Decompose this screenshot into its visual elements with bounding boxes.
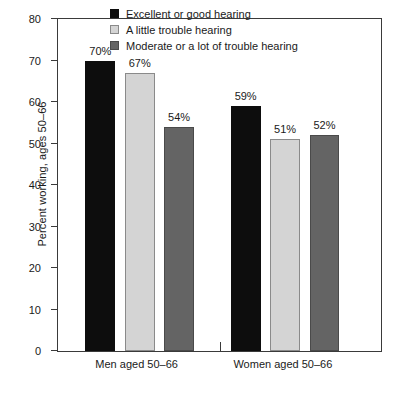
bar-value-label: 51% — [274, 123, 296, 135]
legend-swatch-dark — [110, 9, 119, 18]
bar: 54% — [164, 127, 194, 351]
y-axis-tick-label: 80 — [29, 13, 41, 25]
legend-item: Excellent or good hearing — [110, 6, 298, 21]
y-axis-tick-label: 70 — [29, 55, 41, 67]
y-axis-tick: 40 — [51, 184, 58, 185]
y-axis-tick: 20 — [51, 267, 58, 268]
y-axis-tick-label: 50 — [29, 138, 41, 150]
y-axis-tick: 60 — [51, 101, 58, 102]
bar: 67% — [125, 73, 155, 351]
bar-value-label: 59% — [235, 90, 257, 102]
y-axis-tick: 0 — [51, 350, 58, 351]
bar: 52% — [310, 135, 340, 351]
y-axis-title: Percent working, ages 50–66 — [36, 54, 48, 294]
bar-value-label: 67% — [129, 57, 151, 69]
y-axis-tick-label: 60 — [29, 96, 41, 108]
bars-layer: 70%67%54%59%51%52% — [58, 19, 381, 351]
legend-item: Moderate or a lot of trouble hearing — [110, 38, 298, 53]
bar-value-label: 70% — [89, 45, 111, 57]
plot-area: 01020304050607080 70%67%54%59%51%52% — [57, 18, 382, 352]
legend-item-label: A little trouble hearing — [126, 24, 232, 36]
x-axis-group-separator-tick — [220, 342, 221, 351]
y-axis-tick: 50 — [51, 143, 58, 144]
y-axis-tick-label: 40 — [29, 179, 41, 191]
bar-value-label: 52% — [313, 119, 335, 131]
y-axis-tick: 80 — [51, 18, 58, 19]
y-axis-tick-label: 30 — [29, 221, 41, 233]
bar-value-label: 54% — [168, 111, 190, 123]
y-axis-tick: 10 — [51, 309, 58, 310]
y-axis-tick-label: 20 — [29, 262, 41, 274]
legend: Excellent or good hearingA little troubl… — [110, 6, 298, 54]
y-axis-tick: 70 — [51, 60, 58, 61]
bar: 59% — [231, 106, 261, 351]
y-axis-tick-label: 10 — [29, 304, 41, 316]
legend-item-label: Moderate or a lot of trouble hearing — [126, 40, 298, 52]
legend-item-label: Excellent or good hearing — [126, 8, 251, 20]
bar: 70% — [85, 61, 115, 352]
bar: 51% — [270, 139, 300, 351]
legend-swatch-medium — [110, 41, 119, 50]
bar-chart: Percent working, ages 50–66 010203040506… — [0, 0, 398, 394]
legend-swatch-light — [110, 25, 119, 34]
x-axis-group-label: Women aged 50–66 — [233, 358, 332, 370]
y-axis-tick: 30 — [51, 226, 58, 227]
x-axis-group-label: Men aged 50–66 — [95, 358, 178, 370]
y-axis-tick-label: 0 — [35, 345, 41, 357]
legend-item: A little trouble hearing — [110, 22, 298, 37]
